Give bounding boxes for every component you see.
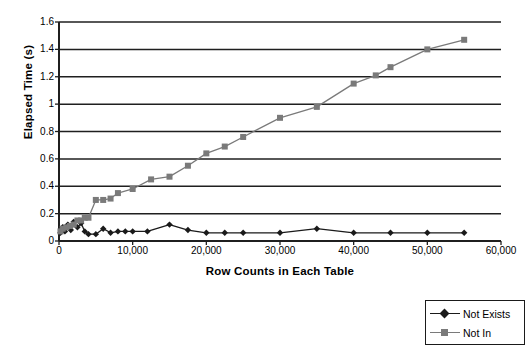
data-point-marker [424,46,430,52]
data-point-marker [100,197,106,203]
data-point-marker [222,144,228,150]
legend-item-not-exists: Not Exists [430,305,510,323]
data-point-marker [277,230,283,236]
legend-key-square-icon [430,327,460,339]
data-point-marker [222,230,228,236]
chart-container: Elapsed Time (s) 00.20.40.60.811.21.41.6… [0,0,527,350]
data-point-marker [130,186,136,192]
series-line-not-in [60,40,464,232]
data-point-marker [93,197,99,203]
data-point-marker [166,221,172,227]
data-point-marker [424,230,430,236]
data-point-marker [461,230,467,236]
data-point-marker [108,196,114,202]
x-axis-tick-label: 60,000 [466,246,527,256]
data-point-marker [115,190,121,196]
x-axis-tick-label: 20,000 [171,246,241,256]
data-point-marker [85,215,91,221]
data-point-marker [115,228,121,234]
data-point-marker [388,64,394,70]
data-point-marker [144,228,150,234]
x-axis-tick-label: 10,000 [98,246,168,256]
data-point-marker [350,230,356,236]
data-point-marker [129,228,135,234]
x-axis-title: Row Counts in Each Table [59,265,501,277]
data-point-marker [148,176,154,182]
x-axis-tick-label: 40,000 [319,246,389,256]
data-point-marker [185,163,191,169]
data-point-marker [122,228,128,234]
chart-legend: Not Exists Not In [425,300,525,345]
data-point-marker [314,225,320,231]
data-point-marker [240,134,246,140]
series-line-not-exists [60,222,464,234]
data-point-marker [461,37,467,43]
legend-label: Not Exists [463,309,510,320]
data-point-marker [185,227,191,233]
data-point-marker [167,174,173,180]
legend-label: Not In [463,328,491,339]
legend-item-not-in: Not In [430,324,491,342]
data-point-marker [373,72,379,78]
x-axis-tick-label: 30,000 [245,246,315,256]
plot-area [0,0,527,350]
data-point-marker [387,230,393,236]
data-point-marker [351,81,357,87]
data-point-marker [203,150,209,156]
data-point-marker [314,104,320,110]
data-point-marker [107,230,113,236]
data-point-marker [277,115,283,121]
data-point-marker [240,230,246,236]
legend-key-diamond-icon [430,308,460,320]
x-axis-tick-label: 50,000 [392,246,462,256]
data-point-marker [203,230,209,236]
x-axis-tick-label: 0 [24,246,94,256]
